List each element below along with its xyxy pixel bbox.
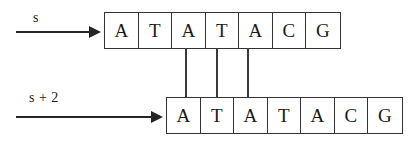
arrow-shaft (16, 31, 90, 33)
dna-shift-diagram: s s + 2 A T A T A C G A T A T A C G (0, 0, 417, 144)
sequence-cell: A (234, 98, 268, 133)
sequence-cell: G (368, 98, 402, 133)
sequence-cell: T (201, 98, 235, 133)
sequence-cell: G (306, 13, 340, 48)
sequence-cell: A (105, 13, 139, 48)
connector-line-3 (247, 48, 249, 98)
sequence-cell: T (268, 98, 302, 133)
arrow-head-icon (151, 111, 163, 123)
sequence-cell: A (167, 98, 201, 133)
top-strip: A T A T A C G (104, 12, 341, 49)
arrow-label-s: s (33, 10, 39, 26)
connector-line-2 (216, 48, 218, 98)
arrow-s (16, 26, 101, 38)
sequence-cell: T (206, 13, 240, 48)
arrow-shaft (16, 116, 152, 118)
arrow-label-s-plus-2: s + 2 (29, 90, 59, 106)
sequence-cell: A (239, 13, 273, 48)
connector-line-1 (185, 48, 187, 98)
bottom-strip: A T A T A C G (166, 97, 403, 134)
sequence-cell: T (139, 13, 173, 48)
arrow-head-icon (89, 26, 101, 38)
sequence-cell: A (301, 98, 335, 133)
sequence-cell: C (273, 13, 307, 48)
sequence-cell: A (172, 13, 206, 48)
sequence-cell: C (335, 98, 369, 133)
arrow-s-plus-2 (16, 111, 163, 123)
